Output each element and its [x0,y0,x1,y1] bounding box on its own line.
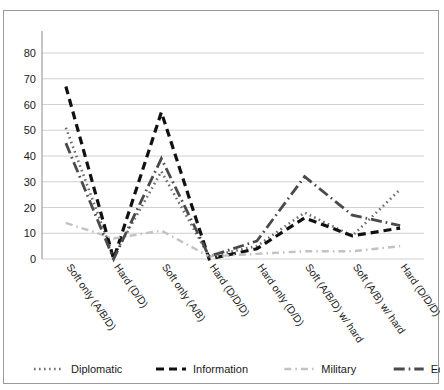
x-axis-tick-label: Soft (A/B) w/ hard [351,261,408,336]
line-chart-svg: 01020304050607080Soft only (A/B/D)Hard (… [4,11,440,385]
x-axis-tick-text: Soft only (A/B) [160,261,209,323]
x-axis-tick-text: Soft (A/B) w/ hard [351,261,408,336]
legend-item-diplomatic[interactable]: Diplomatic [34,363,123,375]
x-axis-tick-label: Hard (D/D/D) [207,261,252,318]
y-axis-tick-label: 10 [24,227,36,239]
x-axis-tick-text: Soft only (A/B/D) [64,261,119,332]
x-axis-tick-label: Hard (D/D) [112,261,151,309]
legend-label: Diplomatic [71,363,123,375]
y-axis-tick-label: 50 [24,124,36,136]
x-axis-tick-text: Hard only (D/D) [255,261,307,328]
chart-canvas: 01020304050607080Soft only (A/B/D)Hard (… [4,11,440,385]
chart-figure: 01020304050607080Soft only (A/B/D)Hard (… [3,10,439,384]
y-axis-tick-label: 70 [24,73,36,85]
series-line-economic [66,143,400,259]
y-axis-tick-label: 80 [24,47,36,59]
y-axis-tick-label: 30 [24,176,36,188]
y-axis-tick-label: 20 [24,202,36,214]
x-axis-tick-label: Soft only (A/B) [160,261,209,323]
x-axis-tick-label: Soft only (A/B/D) [64,261,119,332]
x-axis-tick-text: Hard (D/D) [112,261,151,309]
legend-item-economic[interactable]: Economic [394,363,440,375]
x-axis-tick-label: Hard only (D/D) [255,261,307,328]
y-axis-tick-label: 60 [24,99,36,111]
legend-label: Military [321,363,356,375]
x-axis-tick-text: Hard (D/D/D) [207,261,252,318]
x-axis-tick-text: Hard (D/D/D) [398,261,440,318]
x-axis-tick-label: Hard (D/D/D) [398,261,440,318]
legend-label: Information [193,363,248,375]
legend-label: Economic [431,363,440,375]
legend-item-information[interactable]: Information [156,363,248,375]
legend-item-military[interactable]: Military [284,363,356,375]
y-axis-tick-label: 0 [30,253,36,265]
y-axis-tick-label: 40 [24,150,36,162]
